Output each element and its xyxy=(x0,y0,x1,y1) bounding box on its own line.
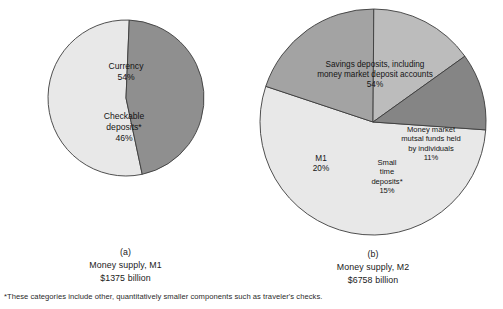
chart-title-a: Money supply, M1 xyxy=(8,259,243,271)
caption-m2: (b) Money supply, M2 $6758 billion xyxy=(248,248,498,286)
money-supply-figure: Currency54%Checkabledeposits*46% (a) Mon… xyxy=(0,0,503,309)
footnote-text: *These categories include other, quantit… xyxy=(4,292,499,302)
caption-m1: (a) Money supply, M1 $1375 billion xyxy=(8,246,243,284)
chart-panel-m1: Currency54%Checkabledeposits*46% (a) Mon… xyxy=(8,6,243,284)
chart-panel-m2: Savings deposits, includingmoney market … xyxy=(248,0,498,286)
panel-letter-a: (a) xyxy=(8,246,243,258)
chart-title-b: Money supply, M2 xyxy=(248,261,498,273)
pie-chart-m1: Currency54%Checkabledeposits*46% xyxy=(26,6,226,191)
pie-chart-m2-area: Savings deposits, includingmoney market … xyxy=(248,0,498,248)
pie-slice xyxy=(126,20,204,174)
pie-chart-m2: Savings deposits, includingmoney market … xyxy=(253,0,493,240)
chart-total-a: $1375 billion xyxy=(8,272,243,284)
pie-chart-m1-area: Currency54%Checkabledeposits*46% xyxy=(8,6,243,246)
panel-letter-b: (b) xyxy=(248,248,498,260)
chart-total-b: $6758 billion xyxy=(248,274,498,286)
